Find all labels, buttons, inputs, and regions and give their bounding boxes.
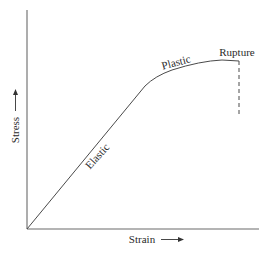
diagram-canvas: Elastic Plastic Rupture Strain Stress <box>0 0 273 254</box>
y-axis-arrow-icon <box>13 89 18 111</box>
x-axis-label: Strain <box>129 233 156 245</box>
stress-strain-diagram: Elastic Plastic Rupture Strain Stress <box>0 0 273 254</box>
y-axis-label: Stress <box>9 117 21 143</box>
x-axis-arrow-icon <box>161 237 184 242</box>
rupture-label: Rupture <box>219 46 255 58</box>
elastic-line <box>27 86 145 229</box>
plastic-curve <box>145 60 239 86</box>
